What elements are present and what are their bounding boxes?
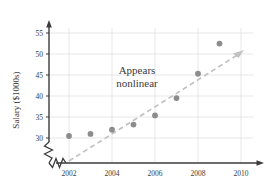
data-point[interactable]: [66, 133, 72, 139]
y-tick-label-30: 30: [36, 134, 44, 143]
data-point[interactable]: [152, 113, 158, 119]
y-tick-label-40: 40: [36, 92, 44, 101]
x-tick-label-2008: 2008: [191, 169, 206, 178]
x-tick-labels: 2002 2004 2006 2008 2010: [62, 169, 249, 178]
y-tick-label-55: 55: [36, 29, 44, 38]
y-tick-labels: 55 50 45 40 35 30: [36, 29, 44, 143]
axes: [45, 20, 265, 168]
data-points: [66, 41, 222, 139]
data-point[interactable]: [174, 95, 180, 101]
data-point[interactable]: [217, 41, 223, 47]
y-tick-label-45: 45: [36, 71, 44, 80]
y-tick-label-35: 35: [36, 113, 44, 122]
annotation-line-1: Appears: [119, 64, 156, 76]
grid-vertical: [69, 28, 241, 163]
y-axis-break-icon: [45, 142, 53, 163]
data-point[interactable]: [88, 131, 94, 137]
y-tick-label-50: 50: [36, 50, 44, 59]
annotation-line-2: nonlinear: [116, 77, 158, 89]
annotation-appears-nonlinear: Appears nonlinear: [116, 64, 158, 89]
y-axis-arrowhead: [46, 20, 52, 28]
y-axis-title: Salary ($1000s): [11, 71, 21, 128]
x-tick-label-2010: 2010: [234, 169, 249, 178]
chart-canvas: 55 50 45 40 35 30 2002 2004 2006 2008 20…: [0, 0, 271, 187]
x-tick-label-2002: 2002: [62, 169, 77, 178]
x-tick-label-2006: 2006: [148, 169, 163, 178]
x-tick-label-2004: 2004: [105, 169, 120, 178]
data-point[interactable]: [195, 71, 201, 77]
trend-line: [69, 50, 244, 161]
scatter-chart: 55 50 45 40 35 30 2002 2004 2006 2008 20…: [0, 0, 271, 187]
data-point[interactable]: [109, 127, 115, 133]
x-axis-arrowhead: [257, 160, 265, 166]
data-point[interactable]: [131, 122, 137, 128]
